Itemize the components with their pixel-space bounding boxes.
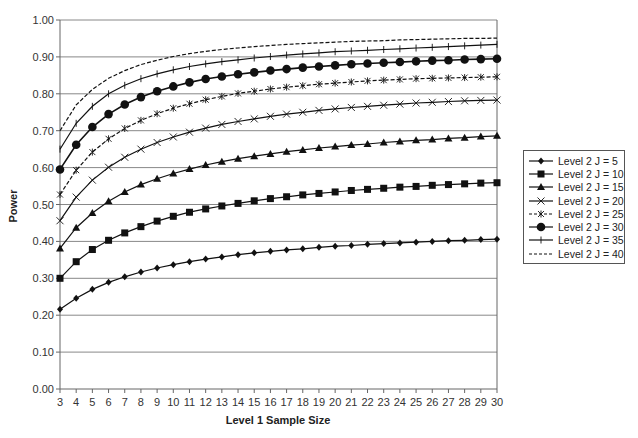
y-tick-label: 0.20 [33, 309, 54, 321]
legend-swatch-circle-icon [528, 222, 554, 232]
legend-label: Level 2 J = 20 [558, 195, 624, 207]
x-tick-label: 7 [122, 396, 128, 408]
x-tick-label: 13 [216, 396, 228, 408]
x-tick-label: 16 [264, 396, 276, 408]
x-tick-label: 15 [248, 396, 260, 408]
x-tick-label: 17 [280, 396, 292, 408]
chart-legend: Level 2 J = 5 Level 2 J = 10 Level 2 J =… [523, 150, 625, 264]
legend-swatch-dashed-line-icon [528, 249, 554, 259]
x-tick-label: 20 [329, 396, 341, 408]
x-tick-label: 5 [89, 396, 95, 408]
y-tick-label: 0.10 [33, 346, 54, 358]
legend-label: Level 2 J = 30 [558, 221, 624, 233]
x-tick-label: 29 [475, 396, 487, 408]
x-tick-label: 19 [313, 396, 325, 408]
x-axis-title: Level 1 Sample Size [226, 414, 331, 426]
x-tick-label: 21 [345, 396, 357, 408]
y-tick-label: 0.30 [33, 272, 54, 284]
legend-item: Level 2 J = 5 [528, 154, 620, 167]
legend-item: Level 2 J = 25 [528, 207, 620, 220]
series-level-2-j--25 [57, 73, 500, 198]
x-tick-label: 26 [426, 396, 438, 408]
x-tick-label: 25 [410, 396, 422, 408]
legend-label: Level 2 J = 5 [558, 155, 618, 167]
series-level-2-j--20 [57, 97, 501, 225]
x-tick-label: 28 [459, 396, 471, 408]
y-axis-title: Power [7, 189, 19, 223]
y-tick-label: 0.70 [33, 125, 54, 137]
legend-swatch-triangle-icon [528, 182, 554, 192]
series-lines [56, 38, 502, 313]
y-tick-label: 0.00 [33, 383, 54, 395]
legend-swatch-plus-icon [528, 235, 554, 245]
legend-item: Level 2 J = 40 [528, 247, 620, 260]
series-level-2-j--5 [57, 236, 500, 313]
y-tick-label: 0.40 [33, 235, 54, 247]
legend-swatch-x-icon [528, 196, 554, 206]
x-tick-label: 9 [154, 396, 160, 408]
x-tick-label: 27 [442, 396, 454, 408]
x-tick-label: 12 [200, 396, 212, 408]
legend-label: Level 2 J = 25 [558, 208, 624, 220]
legend-item: Level 2 J = 20 [528, 194, 620, 207]
x-tick-label: 18 [297, 396, 309, 408]
legend-label: Level 2 J = 35 [558, 234, 624, 246]
x-tick-label: 24 [394, 396, 406, 408]
series-level-2-j--30 [56, 54, 502, 173]
x-tick-label: 4 [73, 396, 79, 408]
legend-label: Level 2 J = 40 [558, 248, 624, 260]
x-tick-label: 23 [378, 396, 390, 408]
x-tick-label: 14 [232, 396, 244, 408]
legend-item: Level 2 J = 30 [528, 220, 620, 233]
x-tick-label: 22 [361, 396, 373, 408]
y-tick-label: 0.50 [33, 199, 54, 211]
x-tick-label: 6 [105, 396, 111, 408]
x-tick-label: 8 [138, 396, 144, 408]
x-tick-label: 11 [184, 396, 195, 408]
y-tick-label: 0.90 [33, 51, 54, 63]
legend-label: Level 2 J = 10 [558, 168, 624, 180]
legend-item: Level 2 J = 15 [528, 181, 620, 194]
legend-label: Level 2 J = 15 [558, 181, 624, 193]
x-tick-label: 30 [491, 396, 503, 408]
legend-swatch-diamond-icon [528, 156, 554, 166]
x-tick-label: 10 [167, 396, 179, 408]
legend-swatch-asterisk-icon [528, 209, 554, 219]
y-tick-label: 0.80 [33, 88, 54, 100]
legend-item: Level 2 J = 10 [528, 167, 620, 180]
legend-item: Level 2 J = 35 [528, 234, 620, 247]
y-tick-label: 1.00 [33, 14, 54, 26]
legend-swatch-square-icon [528, 169, 554, 179]
x-tick-label: 3 [57, 396, 63, 408]
y-tick-label: 0.60 [33, 162, 54, 174]
